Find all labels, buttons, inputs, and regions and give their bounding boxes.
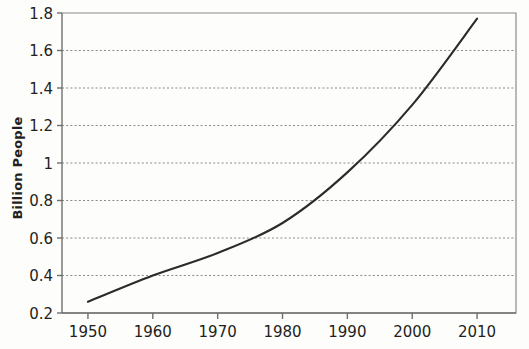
y-tick-label: 1.2 (29, 117, 53, 135)
y-tick-label: 0.6 (29, 230, 53, 248)
y-tick-label: 1 (43, 155, 53, 173)
x-tick-label: 2000 (393, 323, 431, 341)
y-tick-label: 1.4 (29, 80, 53, 98)
y-tick-label: 0.2 (29, 305, 53, 323)
chart-canvas: 0.20.40.60.811.21.41.61.8 19501960197019… (0, 0, 529, 349)
y-axis-title: Billion People (10, 116, 25, 219)
x-tick-label: 2010 (458, 323, 496, 341)
x-tick-label: 1990 (328, 323, 366, 341)
chart-background (0, 0, 529, 349)
x-tick-label: 1970 (199, 323, 237, 341)
x-tick-label: 1960 (134, 323, 172, 341)
x-tick-label: 1980 (263, 323, 301, 341)
y-tick-label: 0.4 (29, 267, 53, 285)
y-axis-title-text: Billion People (10, 116, 25, 219)
y-tick-label: 0.8 (29, 192, 53, 210)
line-chart: 0.20.40.60.811.21.41.61.8 19501960197019… (0, 0, 529, 349)
y-tick-label: 1.8 (29, 5, 53, 23)
y-tick-label: 1.6 (29, 42, 53, 60)
x-tick-label: 1950 (69, 323, 107, 341)
